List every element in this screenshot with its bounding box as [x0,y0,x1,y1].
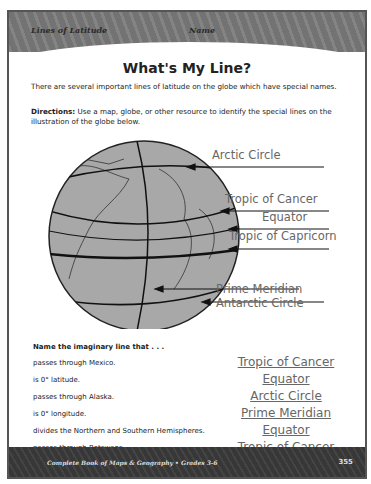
directions-label: Directions: [31,107,75,116]
globe-label-antarctic-circle: Antarctic Circle [216,296,304,310]
page-header-banner: Lines of Latitude Name [9,12,365,52]
page-footer: Complete Book of Maps & Geography • Grad… [9,447,365,477]
question-prompt: passes through Alaska. [33,393,114,401]
name-label: Name [189,25,215,35]
question-prompt: passes through Mexico. [33,359,115,367]
globe-label-tropic-of-cancer: Tropic of Cancer [225,192,318,206]
globe-label-equator: Equator [262,210,307,224]
question-prompt: is 0° longitude. [33,410,86,418]
question-prompt: divides the Northern and Southern Hemisp… [33,427,205,435]
answer-field[interactable]: Tropic of Cancer [231,355,341,369]
answer-field[interactable]: Equator [231,423,341,437]
answer-field[interactable]: Equator [231,372,341,386]
globe-label-prime-meridian: Prime Meridian [216,282,302,296]
book-title: Complete Book of Maps & Geography • Grad… [47,459,218,466]
directions-text: Directions: Use a map, globe, or other r… [31,107,351,127]
questions-heading: Name the imaginary line that . . . [33,343,164,351]
unit-label: Lines of Latitude [31,25,107,35]
intro-text: There are several important lines of lat… [31,82,351,92]
answer-field[interactable]: Prime Meridian [231,406,341,420]
worksheet-page: Lines of Latitude Name What's My Line? T… [7,10,367,479]
answer-field[interactable]: Arctic Circle [231,389,341,403]
page-title: What's My Line? [9,60,365,76]
page-number: 355 [338,458,353,466]
question-prompt: is 0° latitude. [33,376,80,384]
globe-label-tropic-of-capricorn: Tropic of Capricorn [229,229,337,243]
globe-label-arctic-circle: Arctic Circle [212,148,281,162]
directions-body: Use a map, globe, or other resource to i… [31,107,332,126]
